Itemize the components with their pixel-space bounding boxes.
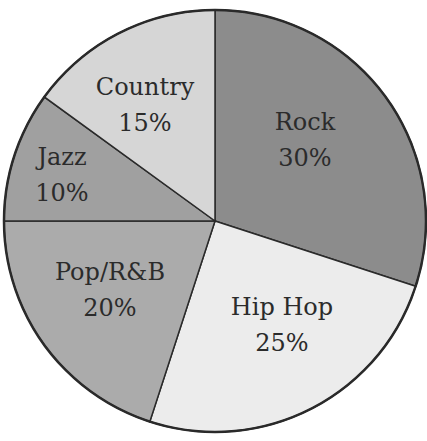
slice-label-category: Pop/R&B bbox=[55, 258, 165, 286]
slice-label-percent: 30% bbox=[278, 144, 331, 172]
slice-label-category: Rock bbox=[275, 108, 336, 136]
pie-slices bbox=[4, 10, 426, 432]
slice-label-percent: 15% bbox=[118, 109, 171, 137]
slice-label-category: Country bbox=[96, 73, 195, 101]
slice-label-percent: 10% bbox=[35, 179, 88, 207]
slice-label-percent: 20% bbox=[83, 294, 136, 322]
slice-label-percent: 25% bbox=[255, 329, 308, 357]
pie-chart: Rock30%Hip Hop25%Pop/R&B20%Jazz10%Countr… bbox=[0, 0, 427, 441]
slice-label-category: Hip Hop bbox=[231, 293, 333, 321]
slice-label-category: Jazz bbox=[34, 143, 86, 171]
